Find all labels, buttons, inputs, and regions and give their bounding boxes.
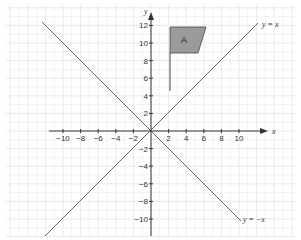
svg-text:10: 10 <box>139 39 148 48</box>
svg-text:12: 12 <box>139 21 148 30</box>
svg-text:6: 6 <box>202 134 207 143</box>
svg-text:−6: −6 <box>139 180 149 189</box>
svg-text:−4: −4 <box>111 134 121 143</box>
line-label-y-equals-minus-x: y = −x <box>242 215 265 224</box>
svg-text:4: 4 <box>144 92 149 101</box>
svg-text:2: 2 <box>166 134 171 143</box>
svg-text:10: 10 <box>235 134 244 143</box>
svg-text:4: 4 <box>184 134 189 143</box>
svg-text:8: 8 <box>144 57 149 66</box>
line-label-y-equals-x: y = x <box>261 20 279 29</box>
shape-a <box>170 27 206 53</box>
svg-text:−8: −8 <box>139 197 149 206</box>
svg-text:−4: −4 <box>139 162 149 171</box>
svg-text:−2: −2 <box>139 145 149 154</box>
svg-text:−8: −8 <box>76 134 86 143</box>
svg-text:8: 8 <box>219 134 224 143</box>
y-axis-arrow-icon <box>148 12 154 20</box>
coordinate-grid: −10−8−6−4−224681012108642−2−4−6−8−10 x y… <box>0 0 301 240</box>
svg-text:−10: −10 <box>56 134 70 143</box>
svg-text:6: 6 <box>144 74 149 83</box>
x-axis-label: x <box>271 127 276 136</box>
svg-text:−6: −6 <box>94 134 104 143</box>
shape-a-label: A <box>181 35 187 45</box>
x-axis-arrow-icon <box>260 128 268 134</box>
svg-text:−2: −2 <box>129 134 139 143</box>
y-axis-label: y <box>143 7 148 16</box>
svg-text:−10: −10 <box>134 215 148 224</box>
svg-text:2: 2 <box>144 109 149 118</box>
